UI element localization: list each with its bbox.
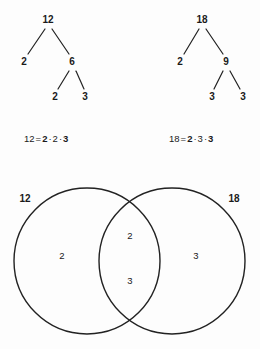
venn-left-circle [14, 188, 160, 334]
venn-right-label: 18 [228, 194, 239, 204]
venn-right-circle [99, 188, 245, 334]
prime-factorization-diagram: 122623182933 12=2·2·318=2·3·3 12182233 [0, 0, 260, 349]
venn-left-label: 12 [19, 194, 30, 204]
venn-intersection-factor: 2 [127, 231, 132, 241]
venn-left-only-factor: 2 [59, 251, 64, 261]
venn-right-only-factor: 3 [193, 251, 198, 261]
venn-circles-layer [0, 0, 260, 349]
venn-intersection-factor: 3 [127, 276, 132, 286]
